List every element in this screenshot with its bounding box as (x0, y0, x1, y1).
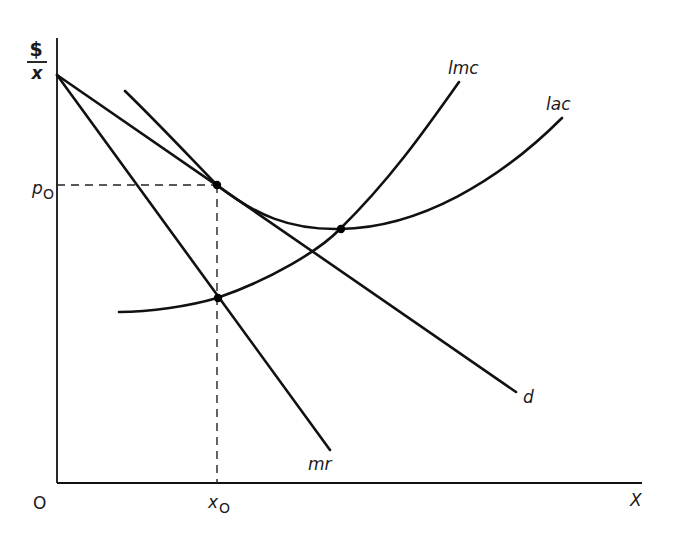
tangency-point (213, 181, 221, 189)
origin-label: O (33, 493, 46, 513)
lmc-curve (119, 82, 459, 312)
y-axis-label: $ x (27, 38, 47, 83)
svg-text:p: p (31, 178, 43, 198)
mr-curve (57, 75, 330, 450)
dollar-sign: $ (29, 38, 42, 60)
x-axis-label: X (629, 490, 642, 510)
economics-diagram: $ x O X p O x O d mr lac lmc (0, 0, 674, 538)
demand-curve (57, 75, 516, 392)
svg-text:O: O (43, 186, 54, 202)
svg-text:x: x (207, 492, 219, 512)
demand-curve-label: d (523, 387, 534, 407)
y-axis-denominator: x (31, 63, 44, 83)
lmc-curve-label: lmc (448, 58, 479, 78)
lac-curve (125, 91, 562, 229)
lac-minimum-point (337, 225, 345, 233)
price-label-p0: p O (31, 178, 54, 202)
mr-curve-label: mr (308, 454, 333, 474)
svg-text:O: O (219, 500, 230, 516)
lac-curve-label: lac (546, 94, 571, 114)
quantity-label-x0: x O (207, 492, 230, 516)
mr-lmc-intersection-point (214, 294, 222, 302)
